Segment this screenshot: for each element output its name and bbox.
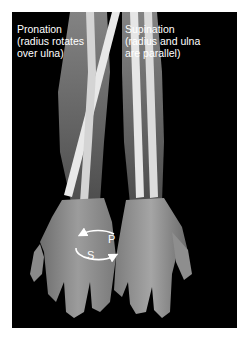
supination-description-line-1: (radius and ulna [125,35,200,47]
supination-description-line-2: are parallel) [125,47,200,59]
supination-title: Supination [125,23,200,35]
forearm-rotation-illustration [12,12,237,328]
pronation-description-line-1: (radius rotates [17,35,84,47]
pronation-label: Pronation (radius rotates over ulna) [17,23,84,59]
pronation-letter-p: P [108,233,115,245]
pronation-title: Pronation [17,23,84,35]
supination-letter-s: S [87,249,94,261]
anatomy-figure: Pronation (radius rotates over ulna) Sup… [12,12,237,328]
pronation-description-line-2: over ulna) [17,47,84,59]
supination-label: Supination (radius and ulna are parallel… [125,23,200,59]
